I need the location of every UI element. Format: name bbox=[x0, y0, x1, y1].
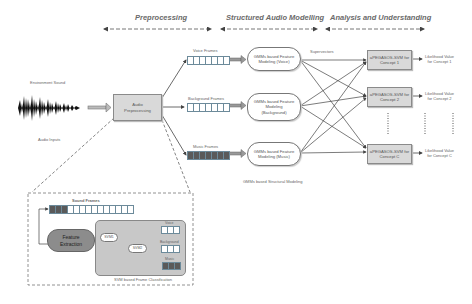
svm-concept-c-line2: Concept C bbox=[380, 154, 400, 159]
likelihood-concept-2-line2: for Concept 2 bbox=[428, 96, 452, 101]
detail-music-label: Music bbox=[165, 257, 174, 261]
svm-concept-2-line2: Concept 2 bbox=[380, 97, 399, 102]
likelihood-concept-c: Likelihood Valuefor Concept C bbox=[425, 148, 454, 158]
voice-frames-label: Voice Frames bbox=[193, 48, 217, 53]
gmm-background-line3: (Background) bbox=[261, 110, 286, 115]
sound-frames-label: Sound Frames bbox=[72, 198, 100, 203]
sound-frames-strip bbox=[49, 205, 134, 214]
detail-voice-frames bbox=[161, 226, 180, 234]
stage-title-structured-audio-modelling: Structured Audio Modelling bbox=[226, 13, 324, 22]
detail-voice-label: Voice bbox=[165, 221, 174, 225]
background-frames-strip bbox=[187, 103, 230, 112]
svm-concept-1-line1: aPEGASOS-SVM for bbox=[370, 55, 409, 60]
likelihood-concept-1: Likelihood Valuefor Concept 1 bbox=[425, 54, 454, 64]
gmm-voice-line2: Modeling (Voice) bbox=[258, 59, 289, 64]
waveform-icon bbox=[18, 95, 80, 121]
stage-title-preprocessing: Preprocessing bbox=[135, 13, 187, 22]
gmm-music-line1: GMMs based Feature bbox=[254, 149, 295, 154]
svm-concept-1-line2: Concept 1 bbox=[380, 60, 399, 65]
gmm-voice-line1: GMMs based Feature bbox=[254, 54, 295, 59]
gmm-background-node: GMMs based FeatureModeling(Background) bbox=[247, 93, 301, 121]
detail-music-frames bbox=[162, 262, 181, 270]
svm1-node: SVM1 bbox=[100, 233, 118, 242]
feature-extraction-line2: Extraction bbox=[60, 241, 82, 247]
audio-preprocessing-line1: Audio bbox=[132, 102, 143, 107]
gmm-voice-node: GMMs based FeatureModeling (Voice) bbox=[247, 47, 301, 71]
svm-concept-c-box: aPEGASOS-SVM forConcept C bbox=[367, 144, 412, 164]
gmm-music-line2: Modeling (Music) bbox=[258, 154, 290, 159]
voice-frames-strip bbox=[187, 56, 230, 65]
gmm-background-line1: GMMs based Feature bbox=[254, 99, 295, 104]
feature-extraction-node: FeatureExtraction bbox=[47, 229, 95, 252]
feature-extraction-line1: Feature bbox=[62, 234, 79, 240]
gmm-music-node: GMMs based FeatureModeling (Music) bbox=[247, 142, 301, 166]
svm-concept-2-line1: aPEGASOS-SVM for bbox=[370, 92, 409, 97]
svm2-node: SVM2 bbox=[128, 244, 147, 253]
svm-concept-2-box: aPEGASOS-SVM forConcept 2 bbox=[367, 87, 412, 107]
music-frames-strip bbox=[187, 151, 230, 160]
likelihood-concept-1-line2: for Concept 1 bbox=[428, 59, 452, 64]
svm-classification-caption: SVM based Frame Classification bbox=[114, 277, 172, 282]
audio-preprocessing-box: AudioPreprocessing bbox=[113, 94, 162, 121]
detail-background-label: Background bbox=[160, 240, 179, 244]
gmm-background-line2: Modeling bbox=[266, 104, 283, 109]
stage-title-analysis-understanding: Analysis and Understanding bbox=[330, 13, 431, 22]
gmm-caption: GMMs based Structural Modeling bbox=[243, 179, 302, 184]
music-frames-label: Music Frames bbox=[193, 144, 218, 149]
background-frames-label: Background Frames bbox=[188, 96, 224, 101]
environment-sound-label: Environment Sound bbox=[30, 80, 65, 85]
audio-preprocessing-line2: Preprocessing bbox=[124, 108, 151, 113]
likelihood-concept-2: Likelihood Valuefor Concept 2 bbox=[425, 91, 454, 101]
svm-concept-1-box: aPEGASOS-SVM forConcept 1 bbox=[367, 50, 412, 70]
detail-background-frames bbox=[161, 245, 180, 253]
supervectors-label: Supervectors bbox=[310, 49, 334, 54]
svm-concept-c-line1: aPEGASOS-SVM for bbox=[370, 149, 409, 154]
audio-inputs-label: Audio Inputs bbox=[38, 137, 60, 142]
likelihood-concept-c-line2: for Concept C bbox=[427, 153, 452, 158]
